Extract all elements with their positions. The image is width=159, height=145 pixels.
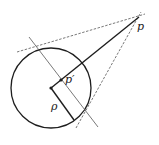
label-p-prime: p′ xyxy=(65,74,75,85)
label-p: p xyxy=(137,21,144,32)
p-prime-point xyxy=(59,78,62,81)
diagram-canvas xyxy=(0,0,159,145)
label-rho: ρ xyxy=(51,101,57,112)
inversion-diagram: p p′ ρ xyxy=(0,0,159,145)
center-point xyxy=(49,86,52,89)
